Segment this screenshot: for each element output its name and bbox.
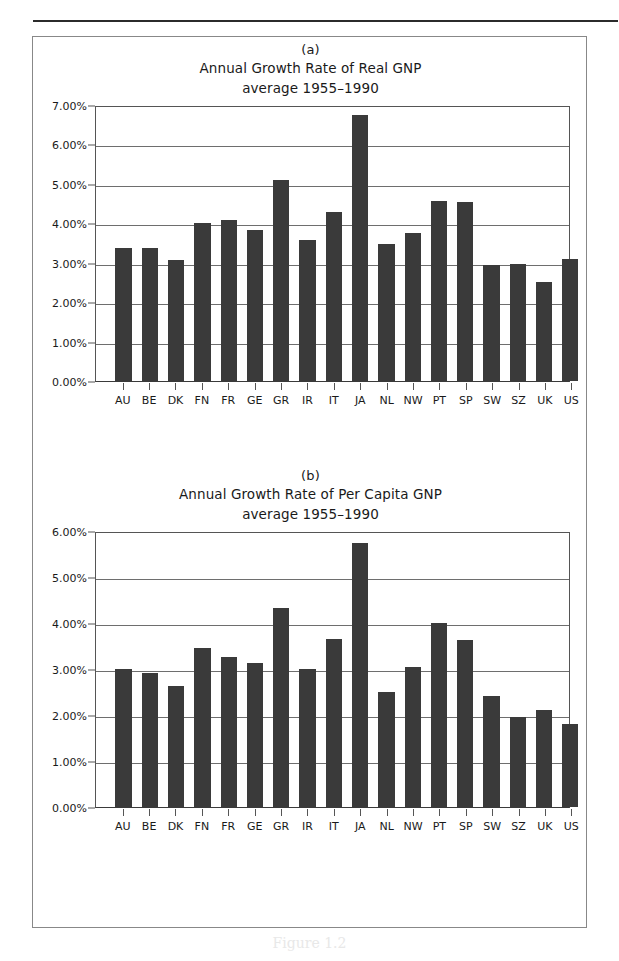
y-tick-label: 5.00%	[52, 179, 87, 190]
x-tick-label: NW	[403, 394, 422, 408]
y-tick-mark	[88, 670, 95, 671]
y-tick-mark	[88, 532, 95, 533]
bar	[378, 244, 394, 381]
x-tick-mark	[123, 809, 124, 816]
page-top-rule	[33, 20, 618, 22]
x-tick-mark	[545, 383, 546, 390]
x-tick-mark	[307, 809, 308, 816]
x-tick-label: BE	[142, 820, 157, 834]
y-tick-label: 1.00%	[52, 337, 87, 348]
x-tick-mark	[466, 383, 467, 390]
x-tick-label: US	[564, 820, 579, 834]
x-tick-mark	[175, 383, 176, 390]
bars-layer-b	[96, 533, 569, 807]
y-tick-label: 0.00%	[52, 803, 87, 814]
x-tick-mark	[307, 383, 308, 390]
bar	[221, 657, 237, 807]
panel-b-subtitle: average 1955–1990	[33, 504, 588, 524]
bar	[247, 230, 263, 381]
x-tick-mark	[255, 809, 256, 816]
bar	[326, 212, 342, 381]
x-tick-label: AU	[115, 820, 131, 834]
x-tick-mark	[360, 809, 361, 816]
bar	[378, 692, 394, 807]
x-tick-mark	[334, 383, 335, 390]
x-tick-label: JA	[355, 394, 366, 408]
figure-caption: Figure 1.2	[0, 934, 619, 952]
plot-area-a: 0.00%1.00%2.00%3.00%4.00%5.00%6.00%7.00%…	[33, 106, 588, 418]
bar	[431, 201, 447, 381]
x-axis-a: AUBEDKFNFRGEGRIRITJANLNWPTSPSWSZUKUS	[95, 394, 570, 410]
y-tick-mark	[88, 145, 95, 146]
panel-b-letter: (b)	[33, 467, 588, 484]
bar	[326, 639, 342, 807]
y-tick-mark	[88, 224, 95, 225]
x-tick-label: NL	[379, 820, 393, 834]
x-tick-mark	[360, 383, 361, 390]
bar	[115, 248, 131, 381]
bar	[405, 233, 421, 381]
x-tick-label: FN	[195, 394, 210, 408]
x-tick-label: IR	[302, 394, 313, 408]
bar	[194, 648, 210, 807]
x-tick-label: GE	[247, 394, 262, 408]
bar	[431, 623, 447, 807]
axes-box-a	[95, 106, 570, 382]
x-tick-mark	[413, 383, 414, 390]
y-tick-mark	[88, 624, 95, 625]
x-tick-label: US	[564, 394, 579, 408]
plot-area-b: 0.00%1.00%2.00%3.00%4.00%5.00%6.00% AUBE…	[33, 532, 588, 844]
bar	[510, 264, 526, 381]
y-tick-label: 3.00%	[52, 665, 87, 676]
x-tick-mark	[571, 809, 572, 816]
bar	[115, 669, 131, 807]
x-tick-mark	[492, 809, 493, 816]
y-tick-label: 4.00%	[52, 619, 87, 630]
x-tick-marks-a	[95, 383, 570, 391]
bar	[562, 259, 578, 381]
y-tick-mark	[88, 263, 95, 264]
x-tick-mark	[202, 809, 203, 816]
x-tick-mark	[387, 809, 388, 816]
x-tick-mark	[149, 809, 150, 816]
x-tick-label: FR	[221, 394, 235, 408]
y-tick-label: 3.00%	[52, 258, 87, 269]
panel-a-letter: (a)	[33, 41, 588, 58]
y-tick-mark	[88, 106, 95, 107]
x-tick-label: DK	[168, 394, 184, 408]
bar	[405, 667, 421, 807]
x-tick-mark	[439, 383, 440, 390]
x-tick-label: DK	[168, 820, 184, 834]
x-tick-mark	[281, 809, 282, 816]
bar	[562, 724, 578, 807]
x-tick-marks-b	[95, 809, 570, 817]
bar	[273, 180, 289, 381]
panel-a-subtitle: average 1955–1990	[33, 78, 588, 98]
bar	[536, 710, 552, 807]
bars-layer-a	[96, 107, 569, 381]
x-tick-label: GR	[273, 820, 289, 834]
x-tick-label: GR	[273, 394, 289, 408]
y-tick-label: 2.00%	[52, 711, 87, 722]
y-tick-label: 7.00%	[52, 101, 87, 112]
bar	[142, 248, 158, 381]
panel-b-title: Annual Growth Rate of Per Capita GNP	[33, 484, 588, 504]
x-tick-label: UK	[537, 394, 552, 408]
x-tick-label: NW	[403, 820, 422, 834]
x-tick-label: SZ	[511, 394, 526, 408]
bar	[352, 543, 368, 807]
x-tick-label: JA	[355, 820, 366, 834]
x-tick-mark	[149, 383, 150, 390]
bar	[510, 717, 526, 807]
x-tick-mark	[123, 383, 124, 390]
x-tick-label: PT	[433, 820, 446, 834]
axes-box-b	[95, 532, 570, 808]
x-tick-mark	[519, 809, 520, 816]
x-tick-mark	[228, 809, 229, 816]
y-tick-mark	[88, 303, 95, 304]
x-tick-mark	[466, 809, 467, 816]
x-tick-label: FN	[195, 820, 210, 834]
y-tick-mark	[88, 762, 95, 763]
x-tick-mark	[519, 383, 520, 390]
chart-panel-b: (b) Annual Growth Rate of Per Capita GNP…	[33, 467, 588, 927]
